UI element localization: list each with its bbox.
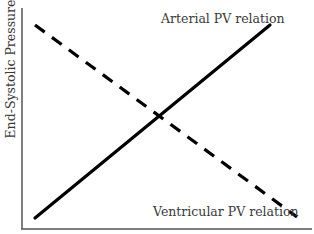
pv-relation-diagram: End-Systolic Pressure Arterial PV relati… xyxy=(0,0,314,234)
ventricular-pv-line xyxy=(35,25,297,217)
y-axis-label: End-Systolic Pressure xyxy=(3,0,18,139)
arterial-pv-line xyxy=(35,25,270,218)
ventricular-pv-label: Ventricular PV relation xyxy=(152,204,299,219)
arterial-pv-label: Arterial PV relation xyxy=(160,11,285,26)
